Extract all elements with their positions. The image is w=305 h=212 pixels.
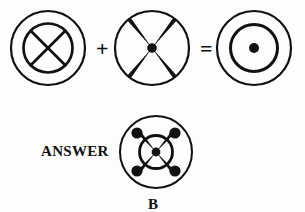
answer-choice-letter: B — [148, 196, 158, 212]
equation-result — [212, 4, 298, 92]
node-bottom-right — [169, 165, 180, 176]
center-node — [152, 148, 161, 157]
answer-label: ANSWER — [41, 143, 109, 160]
node-bottom-left — [131, 165, 142, 176]
operator-equals: = — [200, 38, 213, 60]
equation-term-a — [8, 4, 92, 92]
equation-term-b — [110, 4, 196, 92]
figure-circle-with-thick-tapered-x — [110, 4, 196, 92]
center-dot — [249, 43, 259, 53]
figure-concentric-circles-with-center-dot — [212, 4, 298, 92]
figure-circle-with-crossed-inner-circle-and-four-nodes — [116, 110, 198, 196]
figure-circle-with-crossed-inner-circle — [8, 4, 92, 92]
puzzle-stage: + = ANSWER — [0, 0, 305, 212]
operator-plus: + — [96, 38, 109, 60]
node-top-right — [169, 127, 180, 138]
center-node — [147, 43, 157, 53]
node-top-left — [131, 127, 142, 138]
answer-figure-slot — [116, 110, 198, 196]
